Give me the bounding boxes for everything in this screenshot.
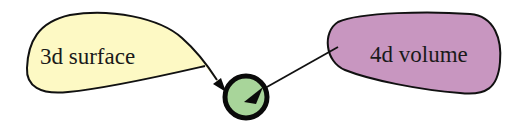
diagram-canvas: 3d surface 4d volume (0, 0, 525, 133)
surface-label: 3d surface (40, 44, 135, 69)
node-3d-surface[interactable]: 3d surface (27, 13, 226, 93)
edge-volume-to-target (258, 47, 338, 92)
node-target-circle[interactable] (225, 76, 267, 118)
node-4d-volume[interactable]: 4d volume (328, 13, 501, 94)
volume-edge-line (258, 47, 338, 92)
target-circle-shape (225, 76, 267, 118)
volume-label: 4d volume (370, 42, 468, 67)
